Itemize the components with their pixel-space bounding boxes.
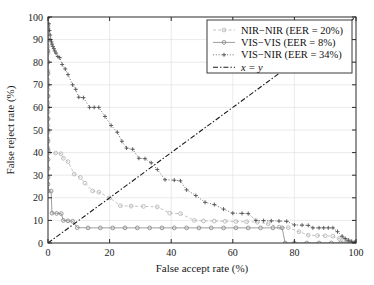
x-axis-label: False accept rate (%) bbox=[156, 262, 249, 275]
y-tick-label: 60 bbox=[33, 102, 43, 113]
legend-entry-label: x = y bbox=[240, 62, 263, 73]
x-tick-label: 60 bbox=[228, 247, 238, 258]
y-tick-label: 50 bbox=[33, 125, 43, 136]
legend-entry-label: VIS−NIR (EER = 34%) bbox=[241, 49, 342, 61]
x-tick-label: 0 bbox=[46, 247, 51, 258]
y-tick-label: 30 bbox=[33, 170, 43, 181]
y-tick-label: 10 bbox=[33, 215, 43, 226]
y-tick-label: 0 bbox=[38, 238, 43, 249]
y-axis-label: False reject rate (%) bbox=[4, 85, 17, 174]
legend-entry-label: VIS−VIS (EER = 8%) bbox=[241, 37, 336, 49]
x-tick-label: 40 bbox=[166, 247, 176, 258]
x-tick-label: 20 bbox=[105, 247, 115, 258]
y-tick-label: 40 bbox=[33, 147, 43, 158]
y-tick-label: 70 bbox=[33, 79, 43, 90]
roc-chart: 020406080100 0102030405060708090100 Fals… bbox=[0, 0, 374, 285]
y-tick-label: 100 bbox=[28, 12, 43, 23]
y-tick-label: 20 bbox=[33, 192, 43, 203]
figure-container: 020406080100 0102030405060708090100 Fals… bbox=[0, 0, 374, 285]
y-tick-label: 80 bbox=[33, 57, 43, 68]
y-tick-label: 90 bbox=[33, 34, 43, 45]
x-tick-label: 100 bbox=[349, 247, 364, 258]
legend: NIR−NIR (EER = 20%)VIS−VIS (EER = 8%)VIS… bbox=[207, 20, 352, 73]
x-tick-label: 80 bbox=[289, 247, 299, 258]
legend-entry-label: NIR−NIR (EER = 20%) bbox=[241, 25, 343, 37]
